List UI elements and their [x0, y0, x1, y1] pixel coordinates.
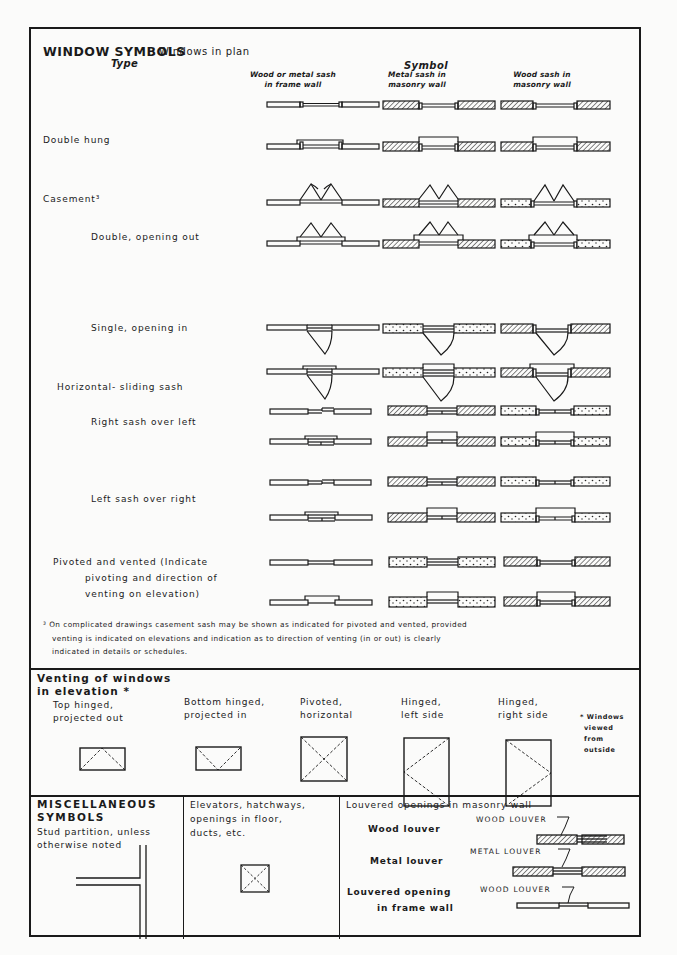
misc-symbols [31, 29, 643, 939]
symbol-sheet-frame: WINDOW SYMBOLS Windows in plan Type Symb… [29, 27, 641, 937]
